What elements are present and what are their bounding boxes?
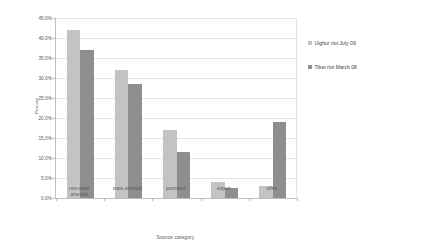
plot-area (55, 18, 297, 199)
x-axis-category-label: other (248, 186, 296, 192)
x-axis-tick-mark (104, 198, 105, 201)
bar-group (211, 18, 238, 198)
chart-legend: Uighur riot July 09Tibet riot March 08 (308, 40, 420, 88)
x-axis-tick-mark (249, 198, 250, 201)
y-axis-tick-label: 5,0% (24, 176, 52, 181)
x-axis-tick-mark (297, 198, 298, 201)
y-axis-tick-mark (53, 58, 56, 59)
y-axis-tick-mark (53, 178, 56, 179)
x-axis-tick-mark (201, 198, 202, 201)
y-axis-tick-mark (53, 158, 56, 159)
x-axis-title: Source category (55, 234, 296, 240)
bar-group (115, 18, 142, 198)
x-axis-category-label: state oriented (103, 186, 151, 192)
bar (80, 50, 94, 198)
y-axis-tick-label: 25,0% (24, 96, 52, 101)
x-axis-category-label: non-state oriented (55, 186, 103, 199)
legend-label: Tibet riot March 08 (315, 64, 357, 70)
bars-layer (56, 18, 297, 198)
y-axis-tick-mark (53, 38, 56, 39)
y-axis-tick-label: 20,0% (24, 116, 52, 121)
bar (115, 70, 129, 198)
y-axis-tick-label: 15,0% (24, 136, 52, 141)
bar (67, 30, 81, 198)
y-axis-tick-mark (53, 98, 56, 99)
y-axis-tick-mark (53, 18, 56, 19)
legend-label: Uighur riot July 09 (315, 40, 356, 46)
y-axis-tick-label: 40,0% (24, 36, 52, 41)
bar-group (163, 18, 190, 198)
legend-entry[interactable]: Uighur riot July 09 (308, 40, 420, 46)
legend-swatch-icon (308, 65, 312, 69)
y-axis-tick-mark (53, 78, 56, 79)
x-axis-category-label: expert (200, 186, 248, 192)
y-axis-tick-mark (53, 138, 56, 139)
y-axis-tick-label: 35,0% (24, 56, 52, 61)
bar (128, 84, 142, 198)
bar-chart-figure: Percent 0,0%5,0%10,0%15,0%20,0%25,0%30,0… (0, 0, 423, 250)
bar-group (259, 18, 286, 198)
y-axis-tick-labels: 0,0%5,0%10,0%15,0%20,0%25,0%30,0%35,0%40… (24, 18, 52, 198)
y-axis-tick-label: 30,0% (24, 76, 52, 81)
y-axis-tick-label: 45,0% (24, 16, 52, 21)
y-axis-tick-mark (53, 118, 56, 119)
legend-swatch-icon (308, 41, 312, 45)
legend-entry[interactable]: Tibet riot March 08 (308, 64, 420, 70)
bar-group (67, 18, 94, 198)
x-axis-tick-mark (152, 198, 153, 201)
y-axis-tick-label: 0,0% (24, 196, 52, 201)
x-axis-category-label: journalist (151, 186, 199, 192)
y-axis-tick-label: 10,0% (24, 156, 52, 161)
